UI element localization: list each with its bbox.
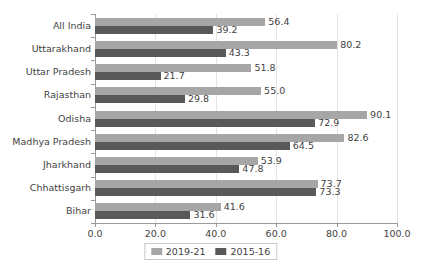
bar-value-label: 31.6 — [193, 210, 214, 220]
chart-legend: 2019-21 2015-16 — [144, 243, 277, 260]
bar-2015-16[interactable] — [95, 95, 185, 103]
x-axis-tick-label: 60.0 — [266, 228, 287, 239]
legend-swatch-icon-2015-16 — [216, 248, 227, 255]
bar-2015-16[interactable] — [95, 142, 290, 150]
x-axis-tick-label: 0.0 — [87, 228, 102, 239]
bar-value-label: 82.6 — [347, 133, 368, 143]
legend-item-2015-16[interactable]: 2015-16 — [216, 246, 271, 257]
bar-chart: All IndiaUttarakhandUttar PradeshRajasth… — [0, 0, 421, 269]
bar-2015-16[interactable] — [95, 165, 239, 173]
legend-label-2015-16: 2015-16 — [231, 246, 271, 257]
y-axis-category-label: Madhya Pradesh — [0, 137, 91, 147]
bar-value-label: 53.9 — [261, 156, 282, 166]
bar-value-label: 41.6 — [224, 202, 245, 212]
bar-2015-16[interactable] — [95, 119, 315, 127]
bar-2019-21[interactable] — [95, 87, 261, 95]
x-axis-tick — [216, 223, 217, 227]
x-axis-tick — [276, 223, 277, 227]
y-axis-category-label: Odisha — [0, 114, 91, 124]
bar-value-label: 80.2 — [340, 40, 361, 50]
bar-2015-16[interactable] — [95, 49, 226, 57]
y-axis-category-label: All India — [0, 21, 91, 31]
x-axis-tick — [95, 223, 96, 227]
x-axis-line — [95, 223, 398, 224]
y-axis-category-label: Rajasthan — [0, 90, 91, 100]
bar-value-label: 56.4 — [268, 17, 289, 27]
legend-item-2019-21[interactable]: 2019-21 — [151, 246, 206, 257]
bar-2019-21[interactable] — [95, 18, 265, 26]
bar-value-label: 64.5 — [293, 141, 314, 151]
x-axis-tick — [337, 223, 338, 227]
x-axis-tick — [155, 223, 156, 227]
bar-2015-16[interactable] — [95, 72, 161, 80]
bar-2019-21[interactable] — [95, 41, 337, 49]
bar-value-label: 73.3 — [319, 187, 340, 197]
y-axis-category-label: Bihar — [0, 206, 91, 216]
bar-value-label: 55.0 — [264, 86, 285, 96]
legend-label-2019-21: 2019-21 — [166, 246, 206, 257]
bar-value-label: 39.2 — [216, 25, 237, 35]
bar-value-label: 90.1 — [370, 110, 391, 120]
x-axis-tick-label: 80.0 — [326, 228, 347, 239]
bar-2015-16[interactable] — [95, 188, 316, 196]
x-axis-tick-label: 40.0 — [205, 228, 226, 239]
bar-value-label: 21.7 — [164, 71, 185, 81]
x-axis-tick-label: 20.0 — [145, 228, 166, 239]
bar-value-label: 29.8 — [188, 94, 209, 104]
y-axis-category-label: Jharkhand — [0, 160, 91, 170]
y-axis-category-label: Chhattisgarh — [0, 183, 91, 193]
gridline — [397, 14, 398, 223]
bar-2019-21[interactable] — [95, 180, 318, 188]
bar-value-label: 72.9 — [318, 118, 339, 128]
y-axis-category-label: Uttarakhand — [0, 44, 91, 54]
bar-2015-16[interactable] — [95, 211, 190, 219]
y-axis-category-labels: All IndiaUttarakhandUttar PradeshRajasth… — [0, 14, 91, 223]
x-axis-tick — [397, 223, 398, 227]
bar-2015-16[interactable] — [95, 26, 213, 34]
bar-value-label: 43.3 — [229, 48, 250, 58]
bar-value-label: 47.8 — [242, 164, 263, 174]
bar-value-label: 51.8 — [254, 63, 275, 73]
x-axis-tick-label: 100.0 — [383, 228, 410, 239]
legend-swatch-icon-2019-21 — [151, 248, 162, 255]
bar-2019-21[interactable] — [95, 157, 258, 165]
y-axis-category-label: Uttar Pradesh — [0, 67, 91, 77]
plot-area: 56.439.280.243.351.821.755.029.890.172.9… — [95, 14, 397, 223]
